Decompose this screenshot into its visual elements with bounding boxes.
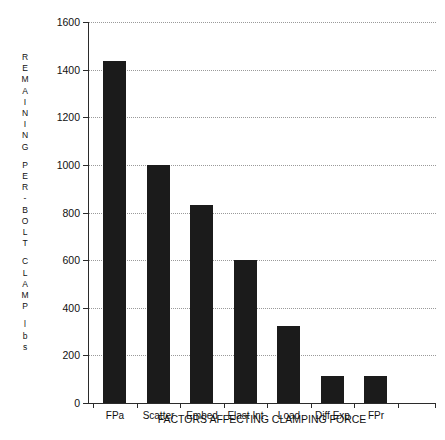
y-axis-tick: [83, 403, 88, 404]
y-axis-title-spacer: [12, 249, 38, 256]
gridline: [89, 213, 436, 215]
y-axis-title-spacer: [12, 153, 38, 160]
y-axis-tick: [83, 117, 88, 118]
x-axis-tick: [137, 403, 138, 408]
y-axis-title: REMAININGPER-BOLTCLAMPlbs: [12, 52, 38, 353]
y-axis-tick-label: 200: [62, 349, 80, 361]
x-axis-tick: [93, 403, 94, 408]
y-axis-title-word: PER-BOLT: [12, 160, 38, 250]
y-axis-title-word: REMAINING: [12, 52, 38, 153]
y-axis-title-spacer: [12, 312, 38, 319]
gridline: [89, 165, 436, 167]
bar-chart: REMAININGPER-BOLTCLAMPlbs 02004006008001…: [0, 0, 445, 440]
bar: [190, 205, 213, 403]
plot-area: 02004006008001000120014001600 FPaScatter…: [88, 22, 436, 403]
x-axis-tick: [224, 403, 225, 408]
bar: [364, 376, 387, 403]
y-axis-tick: [83, 213, 88, 214]
y-axis-tick: [83, 260, 88, 261]
y-axis-tick-label: 1600: [57, 16, 80, 28]
gridline: [89, 70, 436, 72]
x-axis-line: [88, 403, 436, 404]
x-axis-tick: [398, 403, 399, 408]
bar: [321, 376, 344, 403]
gridline: [89, 260, 436, 262]
y-axis-tick-label: 1400: [57, 64, 80, 76]
x-axis-tick: [267, 403, 268, 408]
y-axis-tick: [83, 355, 88, 356]
bar: [277, 326, 300, 403]
x-axis-title: FACTORS AFFECTING CLAMPING FORCE: [88, 413, 436, 425]
y-axis-title-word: CLAMP: [12, 256, 38, 312]
gridline: [89, 117, 436, 119]
y-axis-tick-label: 800: [62, 207, 80, 219]
y-axis-tick: [83, 22, 88, 23]
x-axis-tick: [435, 403, 436, 408]
y-axis-tick: [83, 308, 88, 309]
x-axis-tick: [180, 403, 181, 408]
y-axis-tick-label: 400: [62, 302, 80, 314]
bar: [234, 260, 257, 403]
y-axis-tick-label: 1200: [57, 111, 80, 123]
bar: [147, 165, 170, 403]
y-axis-tick-label: 1000: [57, 159, 80, 171]
bar: [103, 61, 126, 403]
y-axis-tick: [83, 165, 88, 166]
y-axis-tick: [83, 70, 88, 71]
y-axis-tick-label: 0: [74, 397, 80, 409]
x-axis-tick: [354, 403, 355, 408]
gridline: [89, 308, 436, 310]
y-axis-title-word: lbs: [12, 319, 38, 353]
x-axis-tick: [311, 403, 312, 408]
y-axis-tick-label: 600: [62, 254, 80, 266]
gridline: [89, 22, 436, 24]
gridline: [89, 355, 436, 357]
